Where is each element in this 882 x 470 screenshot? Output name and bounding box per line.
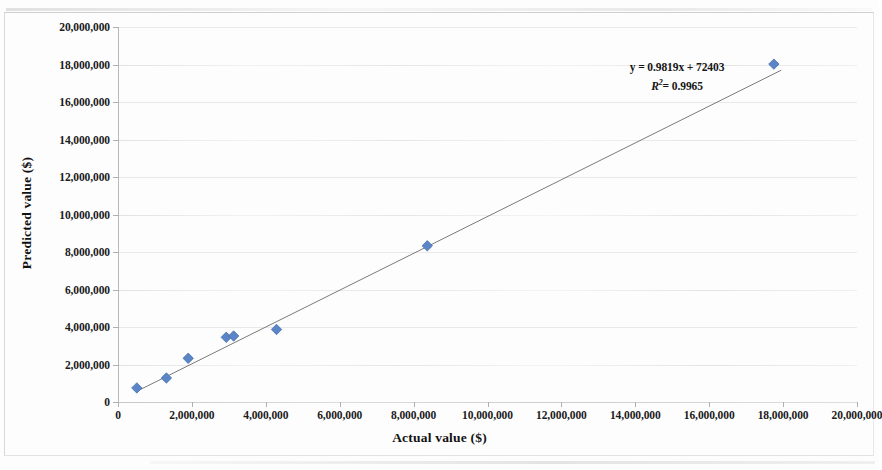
y-axis-title: Predicted value ($) [19, 98, 35, 328]
data-point-marker [132, 383, 142, 393]
data-point-marker [422, 241, 432, 251]
data-point-marker [271, 324, 281, 334]
r-squared-value: = 0.9965 [663, 80, 703, 92]
trendline [137, 70, 781, 391]
regression-annotation: y = 0.9819x + 72403 R2= 0.9965 [612, 60, 742, 94]
data-point-marker [228, 331, 238, 341]
data-point-marker [183, 353, 193, 363]
regression-equation: y = 0.9819x + 72403 [612, 60, 742, 75]
x-axis-title: Actual value ($) [0, 430, 879, 446]
data-point-marker [769, 59, 779, 69]
r-squared-text: R2= 0.9965 [612, 75, 742, 94]
r-squared-symbol: R [651, 80, 659, 92]
